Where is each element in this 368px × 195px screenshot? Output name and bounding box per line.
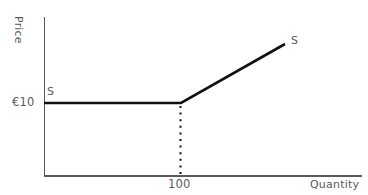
x-axis-tick-label-100: 100 — [168, 179, 191, 191]
supply-curve-figure: Price Quantity €10 100 S S — [0, 0, 368, 195]
chart-canvas — [0, 0, 368, 195]
y-axis-tick-label-10: €10 — [12, 97, 35, 109]
x-axis-title: Quantity — [310, 179, 359, 190]
y-axis-title: Price — [13, 16, 24, 44]
supply-curve-label-left: S — [47, 86, 54, 97]
supply-curve-label-right: S — [291, 35, 298, 46]
supply-curve — [44, 44, 285, 103]
